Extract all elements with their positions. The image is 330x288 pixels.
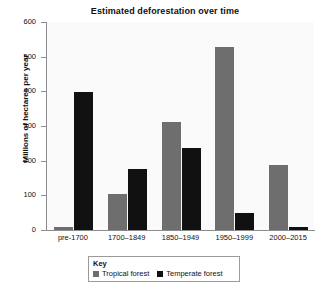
x-tick-label: 1700–1849 [98,233,156,242]
x-tick-label: 1850–1949 [152,233,210,242]
legend-item: Temperate forest [157,269,222,278]
legend-item: Tropical forest [93,269,149,278]
x-tick-label: 1950–1999 [205,233,263,242]
bar-tropical [162,122,181,231]
bar-group [207,22,261,230]
bar-tropical [54,227,73,230]
y-tick-mark [41,230,46,231]
bar-group [100,22,154,230]
bar-temperate [74,92,93,230]
bar-group [261,22,315,230]
bar-temperate [289,227,308,230]
legend-items: Tropical forestTemperate forest [93,269,235,278]
y-tick-label: 400 [10,87,36,94]
legend-swatch-icon [157,271,163,277]
legend-swatch-icon [93,271,99,277]
legend-title: Key [93,259,235,268]
x-tick-label: pre-1700 [44,233,102,242]
bar-temperate [128,169,147,230]
y-tick-label: 500 [10,53,36,60]
y-tick-label: 100 [10,191,36,198]
bar-tropical [215,47,234,230]
bar-group [154,22,208,230]
legend-label: Tropical forest [102,269,149,278]
x-tick-label: 2000–2015 [259,233,317,242]
legend-label: Temperate forest [166,269,222,278]
x-axis-line [46,230,315,231]
bar-tropical [269,165,288,230]
bar-tropical [108,194,127,230]
bar-group [46,22,100,230]
deforestation-bar-chart: Estimated deforestation over time Millio… [0,0,330,288]
y-tick-label: 300 [10,122,36,129]
bar-temperate [235,213,254,230]
legend-key-box: Key Tropical forestTemperate forest [88,256,240,282]
y-tick-label: 200 [10,157,36,164]
y-axis-title: Millions of hectares per year [21,24,30,194]
bars-layer [46,22,315,230]
y-tick-label: 600 [10,18,36,25]
bar-temperate [182,148,201,231]
chart-title: Estimated deforestation over time [0,6,330,16]
y-tick-label: 0 [10,226,36,233]
